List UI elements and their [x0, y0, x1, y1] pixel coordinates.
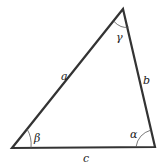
- side-label-c: c: [83, 152, 89, 165]
- triangle-diagram: γ β α a b c: [0, 0, 168, 168]
- angle-arc-beta: [27, 129, 31, 148]
- side-label-b: b: [143, 74, 150, 87]
- angle-label-beta: β: [33, 132, 40, 145]
- angle-arc-alpha: [136, 130, 151, 147]
- side-label-a: a: [61, 70, 68, 83]
- angle-label-alpha: α: [130, 128, 138, 141]
- angle-label-gamma: γ: [116, 31, 123, 44]
